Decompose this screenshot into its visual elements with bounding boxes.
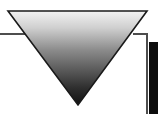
graphic-canvas: A large downward-pointing triangle fille… (0, 0, 158, 114)
right-black-bar (149, 42, 158, 114)
graphic-svg (0, 0, 158, 114)
